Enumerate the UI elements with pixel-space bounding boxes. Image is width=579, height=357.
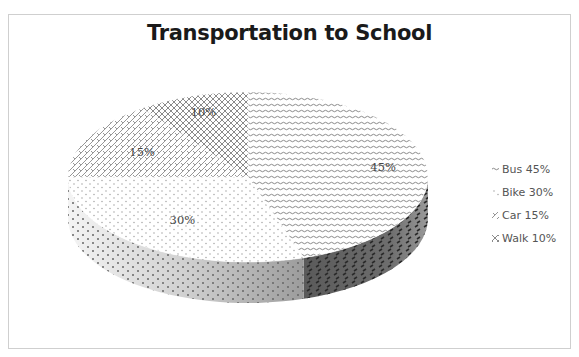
legend-label: Bike 30%: [502, 186, 553, 199]
data-label-car: 15%: [129, 145, 155, 159]
data-label-bus: 45%: [370, 160, 396, 174]
legend-label: Car 15%: [502, 209, 549, 222]
legend-item-bike: Bike 30%: [492, 181, 567, 204]
legend-swatch-bus-icon: [492, 166, 499, 173]
legend-swatch-car-icon: [492, 212, 499, 219]
data-label-walk: 10%: [191, 105, 217, 119]
legend-item-walk: Walk 10%: [492, 227, 567, 250]
legend-swatch-bike-icon: [492, 189, 499, 196]
data-label-bike: 30%: [170, 213, 196, 227]
legend-label: Walk 10%: [502, 232, 556, 245]
legend-item-bus: Bus 45%: [492, 158, 567, 181]
legend: Bus 45% Bike 30% Car 15% Walk 10%: [492, 158, 567, 250]
legend-swatch-walk-icon: [492, 235, 499, 242]
legend-item-car: Car 15%: [492, 204, 567, 227]
legend-label: Bus 45%: [502, 163, 550, 176]
